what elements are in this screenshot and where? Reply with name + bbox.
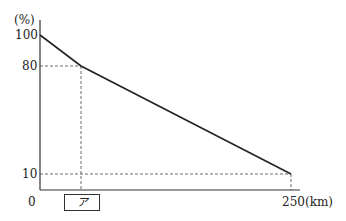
chart-canvas xyxy=(0,0,346,221)
x-tick-250: 250 xyxy=(282,195,305,209)
y-tick-80: 80 xyxy=(22,59,37,73)
x-unit-label: (km) xyxy=(305,195,333,209)
y-tick-100: 100 xyxy=(15,28,38,42)
unknown-x-box: ア xyxy=(64,194,100,211)
data-line xyxy=(40,35,291,174)
origin-label: 0 xyxy=(28,195,36,209)
y-unit-label: (%) xyxy=(14,13,35,27)
y-tick-10: 10 xyxy=(22,167,37,181)
